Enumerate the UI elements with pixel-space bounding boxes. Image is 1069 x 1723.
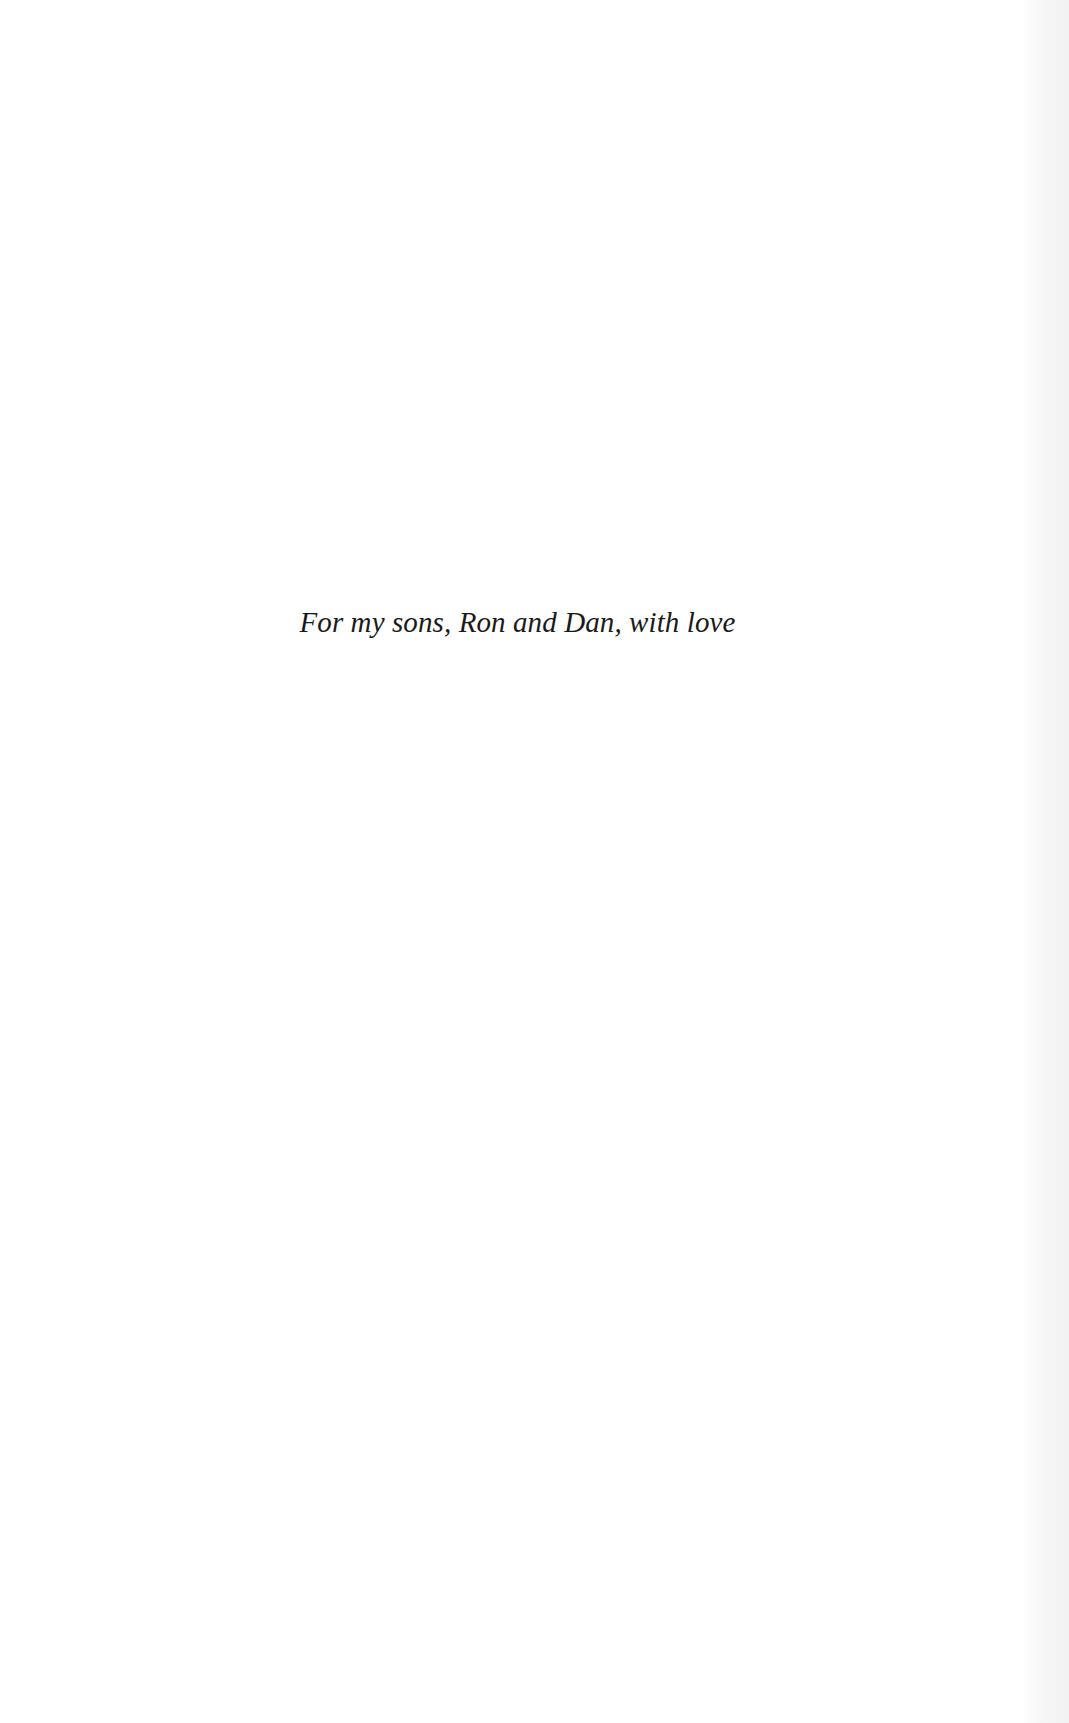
book-page: For my sons, Ron and Dan, with love: [0, 0, 1069, 1723]
dedication-text: For my sons, Ron and Dan, with love: [0, 605, 1035, 640]
